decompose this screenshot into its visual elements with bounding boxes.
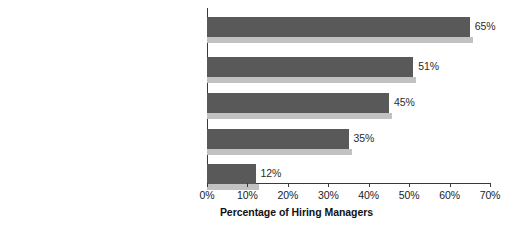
x-axis-title-text: Percentage of Hiring Managers bbox=[220, 206, 373, 218]
x-tick-label-6: 60% bbox=[439, 189, 460, 201]
x-tick-label-4: 40% bbox=[358, 189, 379, 201]
x-tick-label-3: 30% bbox=[318, 189, 339, 201]
x-tick-5 bbox=[409, 183, 410, 187]
x-tick-label-0: 0% bbox=[200, 189, 215, 201]
x-tick-7 bbox=[490, 183, 491, 187]
bar-value-1: 51% bbox=[418, 60, 439, 72]
bar-2 bbox=[207, 93, 389, 113]
plot-area: 65% 51% 45% 35% 12% bbox=[207, 8, 490, 183]
x-tick-label-7: 70% bbox=[480, 189, 501, 201]
bar-0 bbox=[207, 17, 470, 37]
x-tick-0 bbox=[207, 183, 208, 187]
bar-value-3: 35% bbox=[354, 132, 375, 144]
bar-chart: To Determine Whether the Candidate Prese… bbox=[0, 0, 521, 237]
bar-4 bbox=[207, 164, 256, 184]
bar-1 bbox=[207, 57, 413, 77]
x-tick-2 bbox=[288, 183, 289, 187]
x-tick-6 bbox=[450, 183, 451, 187]
x-axis-title: Percentage of Hiring Managers bbox=[0, 206, 521, 218]
bar-value-2: 45% bbox=[394, 96, 415, 108]
x-tick-label-1: 10% bbox=[237, 189, 258, 201]
bar-shadow-1 bbox=[207, 77, 416, 83]
x-tick-label-5: 50% bbox=[399, 189, 420, 201]
x-tick-label-2: 20% bbox=[277, 189, 298, 201]
x-tick-1 bbox=[247, 183, 248, 187]
bar-shadow-0 bbox=[207, 37, 473, 43]
bar-value-0: 65% bbox=[475, 20, 496, 32]
bar-shadow-3 bbox=[207, 149, 352, 155]
x-tick-3 bbox=[328, 183, 329, 187]
x-tick-4 bbox=[369, 183, 370, 187]
bar-value-4: 12% bbox=[261, 167, 282, 179]
bar-3 bbox=[207, 129, 349, 149]
bar-shadow-2 bbox=[207, 113, 392, 119]
